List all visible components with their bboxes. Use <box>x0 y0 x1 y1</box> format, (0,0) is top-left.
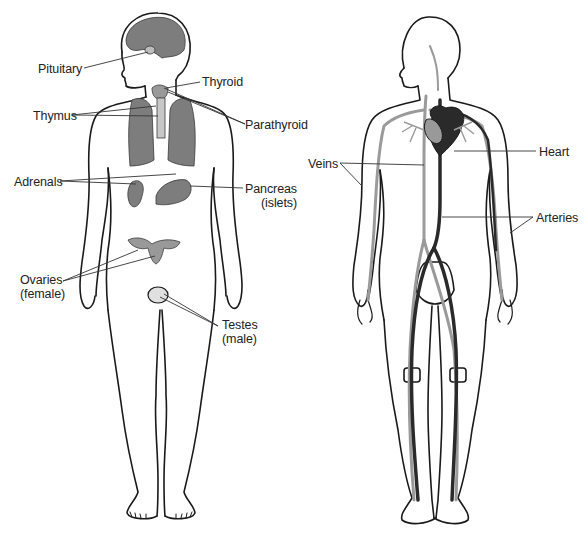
label-text: Testes <box>222 318 258 332</box>
label-adrenals: Adrenals <box>14 175 63 189</box>
label-subtext: (male) <box>222 332 258 346</box>
label-text: Pituitary <box>38 62 82 76</box>
label-text: Adrenals <box>14 175 63 189</box>
label-thymus: Thymus <box>33 109 77 123</box>
label-heart: Heart <box>539 145 569 159</box>
label-text: Arteries <box>536 211 578 225</box>
label-text: Thyroid <box>202 75 243 89</box>
label-text: Thymus <box>33 109 77 123</box>
label-subtext: (female) <box>20 287 65 301</box>
label-arteries: Arteries <box>536 211 578 225</box>
label-ovaries: Ovaries (female) <box>20 273 65 301</box>
label-pancreas: Pancreas (islets) <box>245 182 297 210</box>
label-parathyroid: Parathyroid <box>245 118 308 132</box>
label-text: Ovaries <box>20 273 65 287</box>
circulatory-figure <box>0 0 587 546</box>
label-text: Veins <box>308 157 338 171</box>
label-thyroid: Thyroid <box>202 75 243 89</box>
label-veins: Veins <box>308 157 338 171</box>
label-pituitary: Pituitary <box>38 62 82 76</box>
label-text: Pancreas <box>245 182 297 196</box>
label-subtext: (islets) <box>245 196 297 210</box>
heart-organ <box>424 106 463 156</box>
label-text: Parathyroid <box>245 118 308 132</box>
label-text: Heart <box>539 145 569 159</box>
anatomy-diagram: Pituitary Thyroid Thymus Parathyroid Adr… <box>0 0 587 546</box>
label-testes: Testes (male) <box>222 318 258 346</box>
